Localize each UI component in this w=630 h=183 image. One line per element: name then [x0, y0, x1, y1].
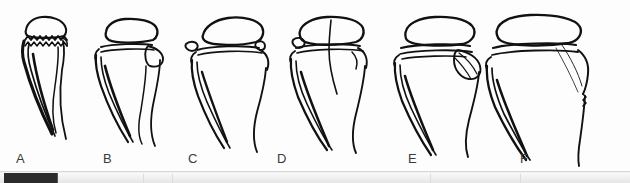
- bone-illustrations-svg: [0, 0, 630, 171]
- bone-drawing-b: [95, 19, 163, 146]
- panel-label-f: F: [520, 152, 528, 165]
- panel-label-d: D: [277, 152, 287, 165]
- track-seam: [143, 174, 144, 183]
- track-seam: [520, 174, 521, 183]
- bone-drawing-d: [290, 17, 367, 153]
- horizontal-scrollbar-track[interactable]: [0, 173, 630, 183]
- bone-drawing-f: [486, 15, 588, 166]
- track-seam: [430, 174, 431, 183]
- bone-drawing-c: [185, 17, 268, 152]
- bone-drawing-e: [394, 17, 480, 157]
- panel-label-e: E: [408, 152, 417, 165]
- track-seam: [172, 174, 173, 183]
- horizontal-scrollbar-thumb[interactable]: [4, 173, 58, 183]
- panel-label-c: C: [188, 152, 198, 165]
- panel-label-b: B: [103, 152, 112, 165]
- panel-label-a: A: [16, 152, 25, 165]
- horizontal-scrollbar[interactable]: [0, 171, 630, 183]
- bone-drawing-a: [23, 17, 68, 139]
- figure-canvas: A B C D E F: [0, 0, 630, 171]
- figure-viewer: A B C D E F: [0, 0, 630, 183]
